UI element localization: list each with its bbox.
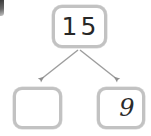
whole-box[interactable]: 15 <box>52 5 107 48</box>
number-bond-diagram: 15 9 <box>0 0 151 136</box>
whole-value: 15 <box>60 14 100 39</box>
arrow-whole-to-left-part <box>40 50 78 80</box>
arrow-whole-to-right-part <box>80 50 118 80</box>
part-box-left-empty[interactable] <box>13 87 62 129</box>
page-edge-mark-icon <box>0 0 4 16</box>
part-right-value: 9 <box>119 96 134 120</box>
part-box-right[interactable]: 9 <box>97 87 145 129</box>
